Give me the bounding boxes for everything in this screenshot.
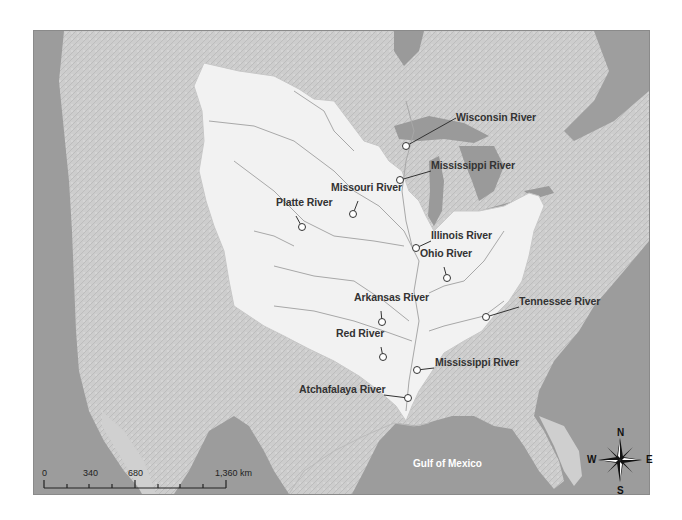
scale-label-1360: 1,360 km (215, 468, 252, 478)
scale-label-0: 0 (42, 468, 47, 478)
label-wisconsin-river: Wisconsin River (456, 111, 536, 123)
label-illinois-river: Illinois River (431, 229, 492, 241)
label-platte-river: Platte River (276, 196, 333, 208)
marker-red-river (380, 354, 387, 361)
compass-south: S (617, 485, 624, 496)
marker-atchafalaya-river (405, 395, 412, 402)
marker-ohio-river (444, 275, 451, 282)
compass-west: W (587, 454, 596, 465)
marker-arkansas-river (379, 319, 386, 326)
label-arkansas-river: Arkansas River (354, 291, 429, 303)
scale-label-680: 680 (128, 468, 143, 478)
compass-east: E (646, 454, 653, 465)
marker-mississippi-river-lower (414, 367, 421, 374)
marker-illinois-river (413, 245, 420, 252)
label-atchafalaya-river: Atchafalaya River (299, 383, 385, 395)
label-gulf-of-mexico: Gulf of Mexico (413, 458, 482, 469)
marker-wisconsin-river (403, 143, 410, 150)
label-tennessee-river: Tennessee River (519, 295, 600, 307)
compass-north: N (617, 427, 624, 438)
map-frame (33, 30, 650, 495)
scale-bar-ruler (40, 478, 240, 490)
label-missouri-river: Missouri River (331, 181, 402, 193)
compass-rose: N S W E (590, 430, 650, 490)
label-mississippi-river-upper: Mississippi River (431, 159, 515, 171)
label-ohio-river: Ohio River (420, 247, 472, 259)
marker-platte-river (299, 224, 306, 231)
marker-missouri-river (350, 211, 357, 218)
label-mississippi-river-lower: Mississippi River (435, 356, 519, 368)
compass-star-icon (590, 430, 650, 490)
scale-label-340: 340 (83, 468, 98, 478)
river-markers (34, 31, 649, 494)
marker-tennessee-river (483, 314, 490, 321)
label-red-river: Red River (336, 327, 384, 339)
